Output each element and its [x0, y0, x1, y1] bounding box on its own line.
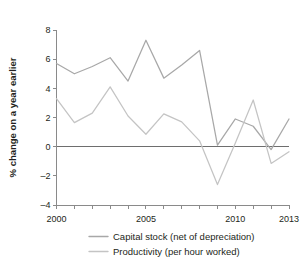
x-tick-label: 2005 [136, 214, 156, 224]
y-tick-label: –4 [40, 200, 50, 210]
x-tick-label: 2013 [279, 214, 299, 224]
y-tick-label: 8 [45, 25, 50, 35]
y-tick-label: 6 [45, 54, 50, 64]
legend-label-productivity: Productivity (per hour worked) [113, 246, 240, 257]
chart-container: 86420–2–42000200520102013% change on a y… [0, 0, 305, 269]
y-tick-label: 4 [45, 84, 50, 94]
y-axis-title: % change on a year earlier [7, 57, 18, 177]
legend-label-capital-stock: Capital stock (net of depreciation) [113, 231, 255, 242]
series-line-capital-stock [57, 40, 290, 149]
x-tick-label: 2000 [46, 214, 66, 224]
line-chart: 86420–2–42000200520102013% change on a y… [0, 0, 305, 269]
y-tick-label: 0 [45, 142, 50, 152]
y-tick-label: –2 [40, 171, 50, 181]
y-tick-label: 2 [45, 113, 50, 123]
series-line-productivity [57, 87, 290, 185]
x-tick-label: 2010 [225, 214, 245, 224]
